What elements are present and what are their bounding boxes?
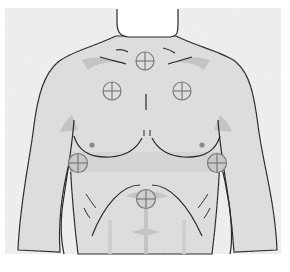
shadow-abs-left bbox=[108, 220, 112, 254]
electrode-left-infraclavicular bbox=[173, 82, 191, 100]
electrode-right-infraclavicular bbox=[103, 82, 121, 100]
nipple-left bbox=[89, 142, 94, 147]
electrode-placement-diagram: Electrode placement diagram on anterior … bbox=[0, 0, 290, 272]
electrode-right-midaxillary bbox=[69, 154, 88, 173]
electrode-epigastric bbox=[137, 190, 156, 209]
shadow-abs-right bbox=[182, 220, 186, 254]
neck bbox=[117, 8, 178, 37]
electrode-left-midaxillary bbox=[208, 154, 227, 173]
electrode-upper-sternum bbox=[136, 52, 154, 70]
torso-illustration bbox=[0, 0, 290, 272]
nipple-right bbox=[199, 142, 204, 147]
